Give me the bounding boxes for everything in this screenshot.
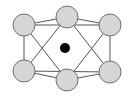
node-top-middle bbox=[56, 6, 78, 28]
node-bottom-right bbox=[99, 61, 121, 83]
node-top-left bbox=[13, 14, 35, 36]
node-bottom-left bbox=[13, 60, 35, 82]
node-bottom-middle bbox=[56, 69, 78, 91]
graph-diagram bbox=[0, 0, 128, 97]
node-top-right bbox=[99, 14, 121, 36]
center-dot bbox=[60, 43, 70, 53]
